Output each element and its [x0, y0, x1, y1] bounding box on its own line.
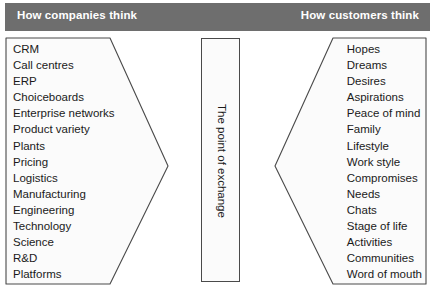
list-item: Communities	[347, 250, 422, 266]
list-item: Word of mouth	[347, 266, 422, 282]
header-label-companies: How companies think	[17, 9, 137, 21]
diagram-canvas: How companies think How customers think …	[0, 0, 435, 294]
list-item: Call centres	[13, 57, 115, 73]
list-item: Peace of mind	[347, 105, 422, 121]
list-item: Aspirations	[347, 89, 422, 105]
list-item: Choiceboards	[13, 89, 115, 105]
list-item: Product variety	[13, 121, 115, 137]
list-item: Technology	[13, 218, 115, 234]
list-item: Engineering	[13, 202, 115, 218]
list-item: Science	[13, 234, 115, 250]
list-item: Activities	[347, 234, 422, 250]
list-item: Dreams	[347, 57, 422, 73]
list-item: Lifestyle	[347, 138, 422, 154]
list-item: Compromises	[347, 170, 422, 186]
centre-label-wrapper: The point of exchange	[202, 39, 241, 283]
list-item: Logistics	[13, 170, 115, 186]
list-item: R&D	[13, 250, 115, 266]
customers-list: Hopes Dreams Desires Aspirations Peace o…	[347, 41, 422, 282]
list-item: Manufacturing	[13, 186, 115, 202]
list-item: Platforms	[13, 266, 115, 282]
list-item: Desires	[347, 73, 422, 89]
point-of-exchange-box: The point of exchange	[201, 38, 240, 282]
list-item: ERP	[13, 73, 115, 89]
list-item: Pricing	[13, 154, 115, 170]
list-item: Family	[347, 121, 422, 137]
list-item: CRM	[13, 41, 115, 57]
companies-list: CRM Call centres ERP Choiceboards Enterp…	[13, 41, 115, 282]
list-item: Needs	[347, 186, 422, 202]
list-item: Stage of life	[347, 218, 422, 234]
point-of-exchange-label: The point of exchange	[216, 104, 228, 218]
list-item: Plants	[13, 138, 115, 154]
list-item: Hopes	[347, 41, 422, 57]
list-item: Work style	[347, 154, 422, 170]
list-item: Chats	[347, 202, 422, 218]
list-item: Enterprise networks	[13, 105, 115, 121]
header-label-customers: How customers think	[301, 9, 419, 21]
